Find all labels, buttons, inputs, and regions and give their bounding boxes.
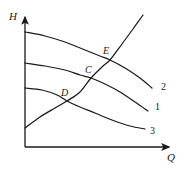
curve-label-3: 3 — [150, 126, 155, 136]
curve-label-1: 1 — [155, 102, 160, 112]
plot-canvas — [0, 0, 185, 171]
y-axis-label: H — [9, 11, 17, 22]
operating-point-label-d: D — [61, 88, 68, 98]
x-axis-label: Q — [167, 152, 175, 163]
operating-point-label-e: E — [103, 46, 109, 56]
pump-curve-3 — [25, 88, 145, 129]
operating-point-label-c: C — [85, 65, 92, 75]
pump-characteristic-figure: H Q E C D 2 1 3 — [0, 0, 185, 171]
pump-curve-2 — [25, 32, 152, 88]
system-resistance-curve — [25, 15, 143, 128]
curve-label-2: 2 — [161, 82, 166, 92]
